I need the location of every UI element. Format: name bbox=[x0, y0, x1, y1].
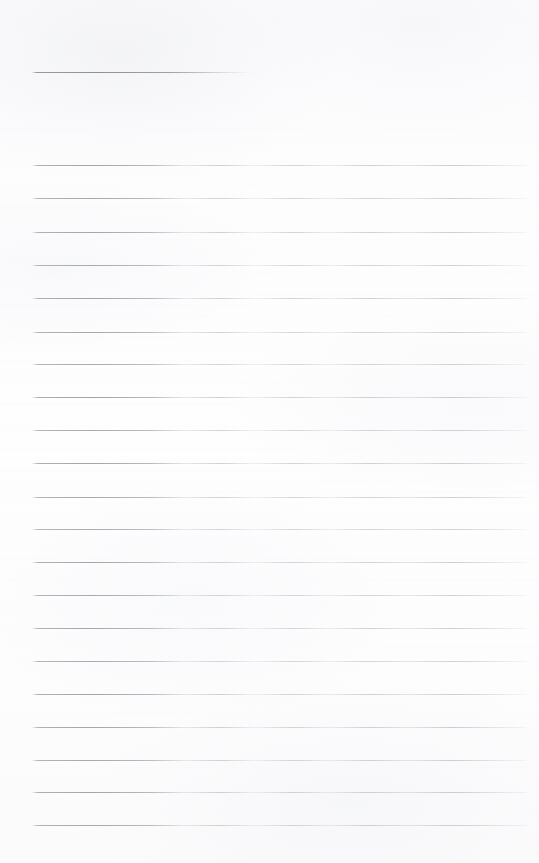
ruled-line bbox=[32, 265, 527, 266]
ruled-line bbox=[32, 364, 527, 365]
ruled-line bbox=[32, 497, 527, 498]
ruled-line bbox=[32, 529, 527, 530]
ruled-line bbox=[32, 628, 527, 629]
ruled-line bbox=[32, 463, 527, 464]
ruled-line bbox=[32, 792, 527, 793]
ruled-line bbox=[32, 562, 527, 563]
note-page bbox=[0, 0, 539, 863]
ruled-line bbox=[32, 165, 527, 166]
ruled-line bbox=[32, 72, 256, 73]
ruled-line bbox=[32, 694, 527, 695]
ruled-line bbox=[32, 430, 527, 431]
ruled-line bbox=[32, 332, 527, 333]
ruled-line bbox=[32, 232, 527, 233]
ruled-line bbox=[32, 727, 527, 728]
ruled-line bbox=[32, 397, 527, 398]
ruled-line bbox=[32, 825, 527, 826]
ruled-line bbox=[32, 298, 527, 299]
ruled-line bbox=[32, 661, 527, 662]
ruled-line bbox=[32, 760, 527, 761]
ruled-line bbox=[32, 198, 527, 199]
ruled-line bbox=[32, 595, 527, 596]
